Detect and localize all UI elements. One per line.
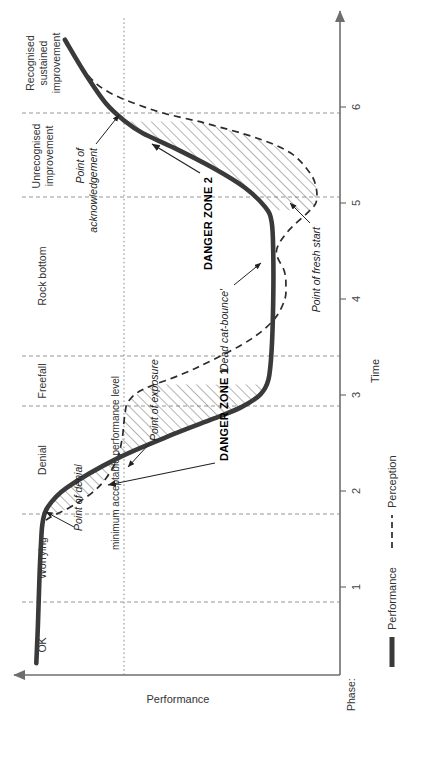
- legend-label-perception: Perception: [386, 455, 398, 508]
- point-of-acknowledgement-leader: [96, 115, 119, 144]
- x-tick-labels: 1 2 3 4 5 6: [350, 104, 362, 590]
- x-tick-label-2: 2: [350, 488, 362, 494]
- legend-item-performance: Performance: [386, 567, 398, 667]
- danger-zone-2-label: DANGER ZONE 2: [202, 177, 214, 270]
- point-of-denial-label: Point of denial: [72, 464, 84, 531]
- point-of-acknowledgement-line2: acknowledgement: [87, 147, 99, 233]
- point-of-fresh-start-label: Point of fresh start: [310, 226, 322, 312]
- legend-item-perception: Perception: [386, 455, 398, 548]
- phase-label-denial-text: Denial: [36, 445, 48, 475]
- dead-cat-bounce-label: 'Dead cat-bounce': [218, 288, 230, 373]
- phase-label-rock-bottom-text: Rock bottom: [36, 246, 48, 305]
- x-tick-label-6: 6: [350, 104, 362, 110]
- x-axis-title: Time: [369, 359, 381, 383]
- annotation-dead-cat-bounce: 'Dead cat-bounce': [218, 263, 261, 373]
- phase-label-freefall-text: Freefall: [36, 363, 48, 398]
- point-of-exposure-label: Point of exposure: [148, 359, 160, 441]
- x-tick-label-4: 4: [350, 296, 362, 302]
- change-curve-chart: Phase: OK Worrying Denial Freefall Rock …: [0, 0, 428, 763]
- phase-label-recognised-line1: Recognised: [24, 35, 36, 91]
- danger-zone-1-label: DANGER ZONE 1: [218, 368, 230, 461]
- rotated-chart-stage: Phase: OK Worrying Denial Freefall Rock …: [0, 0, 428, 763]
- phase-label-rock-bottom: Rock bottom: [36, 246, 48, 305]
- legend: Performance Perception: [386, 455, 398, 667]
- legend-label-performance: Performance: [386, 567, 398, 630]
- annotation-point-of-acknowledgement: Point of acknowledgement: [74, 115, 119, 233]
- phase-label-unrecognised-line1: Unrecognised: [30, 123, 42, 188]
- phase-label-freefall: Freefall: [36, 363, 48, 398]
- x-tick-label-3: 3: [350, 392, 362, 398]
- danger-zone-1-leader: [108, 463, 215, 485]
- axes-group: 1 2 3 4 5 6 Time Performance: [14, 11, 381, 705]
- y-axis-title: Performance: [147, 693, 210, 705]
- phase-label-recognised-line3: improvement: [50, 33, 62, 94]
- point-of-acknowledgement-line1: Point of: [74, 147, 86, 184]
- annotation-point-of-fresh-start: Point of fresh start: [290, 203, 322, 312]
- x-tick-label-5: 5: [350, 200, 362, 206]
- phase-axis-title: Phase:: [345, 678, 357, 711]
- phase-label-unrecognised-line2: improvement: [43, 126, 55, 187]
- phase-label-unrecognised-improvement: Unrecognised improvement: [30, 123, 55, 188]
- phase-label-recognised-sustained-improvement: Recognised sustained improvement: [24, 33, 62, 94]
- phase-label-denial: Denial: [36, 445, 48, 475]
- x-tick-label-1: 1: [350, 584, 362, 590]
- dead-cat-bounce-leader: [234, 263, 261, 285]
- x-tick-marks: [340, 107, 346, 587]
- phase-label-recognised-line2: sustained: [37, 40, 49, 85]
